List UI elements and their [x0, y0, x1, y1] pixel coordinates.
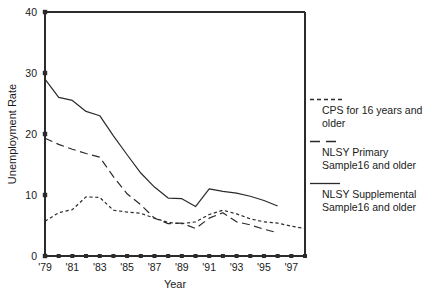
legend-entry-nlsy-primary: NLSY Primary Sample16 and older [308, 138, 429, 171]
x-tick-1979 [43, 254, 47, 258]
x-axis-title: Year [164, 278, 187, 290]
x-tick-1993 [235, 254, 239, 258]
y-tick-label-30: 30 [25, 67, 37, 79]
x-tick-1997 [289, 254, 293, 258]
chart-legend: CPS for 16 years and older NLSY Primary … [308, 96, 429, 222]
x-tick-label-1983: '83 [93, 261, 107, 273]
x-tick-1987 [152, 254, 156, 258]
y-tick-10 [43, 193, 47, 197]
x-tick-label-1993: '93 [230, 261, 244, 273]
chart-figure: 010203040 '79'81'83'85'87'89'91'93'95'97… [0, 0, 429, 295]
legend-entry-nlsy-supplemental: NLSY Supplemental Sample16 and older [308, 180, 429, 213]
legend-entry-cps: CPS for 16 years and older [308, 96, 429, 129]
x-tick-1992 [221, 254, 225, 258]
x-axis-tick-labels: '79'81'83'85'87'89'91'93'95'97 [38, 261, 298, 273]
y-tick-label-10: 10 [25, 189, 37, 201]
x-tick-label-1997: '97 [284, 261, 298, 273]
y-tick-label-20: 20 [25, 128, 37, 140]
y-tick-40 [43, 10, 47, 14]
y-tick-20 [43, 132, 47, 136]
y-tick-label-0: 0 [31, 250, 37, 262]
x-tick-1984 [111, 254, 115, 258]
x-tick-1994 [248, 254, 252, 258]
y-axis-title: Unemployment Rate [6, 84, 18, 184]
x-tick-1983 [98, 254, 102, 258]
x-tick-1980 [57, 254, 61, 258]
x-tick-1990 [194, 254, 198, 258]
x-tick-1981 [70, 254, 74, 258]
legend-label-nlsy-primary: NLSY Primary Sample16 and older [322, 146, 429, 171]
series-line-solid [45, 79, 278, 206]
legend-swatch-solid [310, 180, 344, 187]
x-tick-1982 [84, 254, 88, 258]
series-line-dashed [45, 138, 278, 233]
legend-swatch-dotted [310, 96, 344, 103]
x-tick-label-1979: '79 [38, 261, 52, 273]
x-tick-label-1989: '89 [175, 261, 189, 273]
x-tick-label-1995: '95 [257, 261, 271, 273]
x-tick-1995 [262, 254, 266, 258]
x-tick-label-1991: '91 [202, 261, 216, 273]
x-tick-1986 [139, 254, 143, 258]
x-tick-1996 [276, 254, 280, 258]
y-tick-label-40: 40 [25, 6, 37, 18]
y-tick-30 [43, 71, 47, 75]
data-series-group [45, 79, 305, 233]
x-tick-label-1985: '85 [120, 261, 134, 273]
plot-frame [45, 12, 305, 256]
legend-label-cps: CPS for 16 years and older [322, 104, 429, 129]
x-tick-1988 [166, 254, 170, 258]
x-tick-label-1987: '87 [148, 261, 162, 273]
y-axis-tick-labels: 010203040 [25, 6, 37, 262]
x-tick-1998 [303, 254, 307, 258]
legend-label-nlsy-supplemental: NLSY Supplemental Sample16 and older [322, 188, 429, 213]
x-tick-1985 [125, 254, 129, 258]
legend-swatch-dashed [310, 138, 344, 145]
x-tick-1991 [207, 254, 211, 258]
x-tick-label-1981: '81 [66, 261, 80, 273]
x-tick-1989 [180, 254, 184, 258]
